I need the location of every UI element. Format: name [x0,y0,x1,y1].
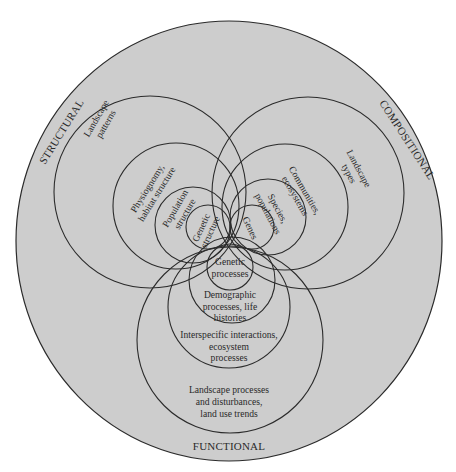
svg-text:processes: processes [211,352,248,363]
svg-text:and disturbances,: and disturbances, [196,396,263,407]
svg-text:histories: histories [214,312,247,323]
functional-title: FUNCTIONAL [193,440,265,452]
svg-text:processes: processes [212,268,249,279]
svg-text:Genetic: Genetic [215,256,245,267]
functional-genetic-label: Genetic processes [212,256,249,279]
svg-text:ecosystem: ecosystem [209,341,250,352]
svg-text:processes, life: processes, life [203,301,257,312]
biodiversity-hierarchy-diagram: STRUCTURAL COMPOSITIONAL FUNCTIONAL Land… [0,0,456,472]
svg-text:land use trends: land use trends [200,408,258,419]
svg-text:Demographic: Demographic [204,289,256,300]
svg-text:Interspecific interactions,: Interspecific interactions, [180,329,278,340]
svg-text:Landscape processes: Landscape processes [189,384,269,395]
functional-landscape-label: Landscape processes and disturbances, la… [189,384,269,419]
